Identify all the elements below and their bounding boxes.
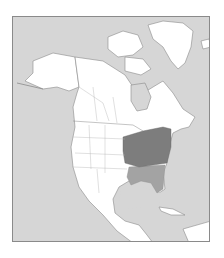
iceland	[201, 39, 210, 49]
alaska	[25, 53, 79, 91]
greenland	[148, 21, 193, 69]
gulf-of-mexico	[119, 187, 161, 209]
cuba	[159, 207, 185, 215]
north-america-map	[13, 17, 210, 242]
map-frame	[12, 16, 210, 242]
south-america	[183, 221, 210, 242]
